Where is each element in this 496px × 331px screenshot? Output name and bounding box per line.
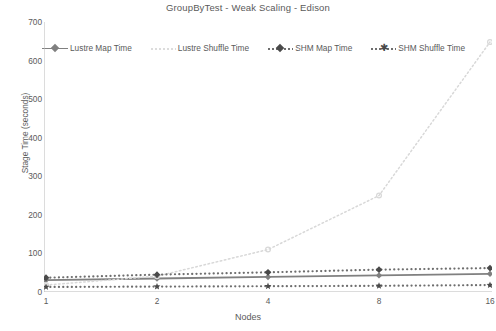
data-point-marker [487, 265, 492, 272]
series-shm-shuffle-time [44, 281, 492, 289]
data-point-marker [265, 269, 272, 276]
plot-svg [44, 22, 492, 292]
data-point-marker [376, 282, 383, 289]
data-point-marker [265, 283, 272, 290]
y-axis-tick-label: 700 [8, 18, 42, 26]
chart-container: GroupByTest - Weak Scaling - Edison Lust… [0, 0, 496, 331]
data-point-marker [376, 272, 382, 278]
data-point-marker [487, 281, 492, 288]
y-axis-title: Stage Time (seconds) [20, 58, 30, 208]
y-axis-tick-label: 200 [8, 211, 42, 219]
x-axis-tick-label: 4 [248, 296, 288, 306]
y-axis-tick-label: 100 [8, 249, 42, 257]
chart-title: GroupByTest - Weak Scaling - Edison [0, 2, 496, 13]
data-point-marker [154, 283, 161, 290]
x-axis-tick-labels: 124816 [0, 296, 496, 310]
x-axis-title: Nodes [0, 312, 496, 322]
x-axis-tick-label: 1 [26, 296, 66, 306]
y-axis-tick-label: 0 [8, 288, 42, 296]
series-lustre-shuffle-time [44, 40, 492, 288]
series-line [46, 42, 490, 285]
x-axis-tick-label: 8 [359, 296, 399, 306]
data-point-marker [487, 271, 492, 277]
plot-area [44, 22, 492, 292]
x-axis-tick-label: 2 [137, 296, 177, 306]
x-axis-tick-label: 16 [470, 296, 496, 306]
data-point-marker [376, 266, 383, 273]
